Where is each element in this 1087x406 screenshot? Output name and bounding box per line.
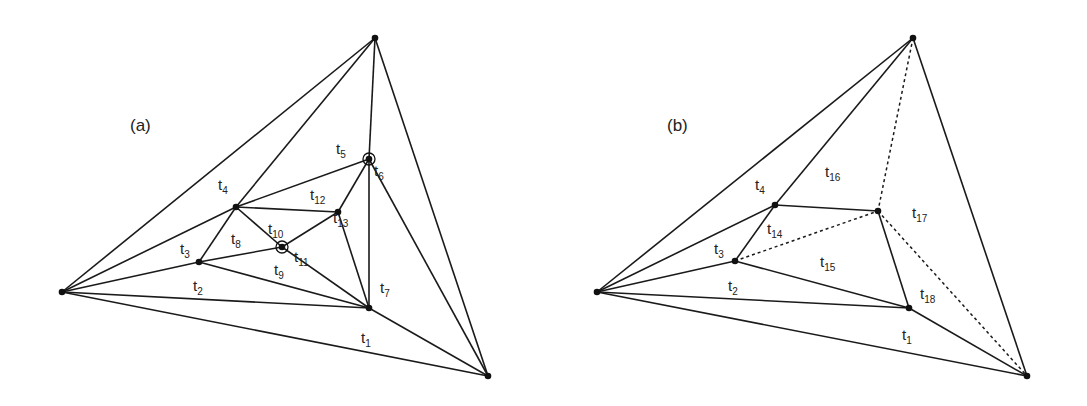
vertex-dot <box>732 258 739 265</box>
triangle-label: t11 <box>294 248 309 268</box>
edge <box>597 205 775 292</box>
vertex-dot <box>875 208 882 215</box>
vertex-dot <box>366 305 373 312</box>
panel-b-triangulation: t1t2t3t4t14t15t16t17t18(b) <box>594 35 1031 380</box>
vertex-dot <box>485 373 492 380</box>
edge <box>338 159 369 212</box>
edge <box>282 212 338 247</box>
triangle-label: t17 <box>912 204 928 224</box>
edge <box>597 261 735 292</box>
triangle-label: t3 <box>714 240 724 260</box>
triangle-label: t18 <box>920 285 936 305</box>
edge <box>775 38 913 205</box>
triangle-label: t4 <box>218 176 228 196</box>
triangulation-diagram: t1t2t3t4t5t6t7t8t9t10t11t12t13(a) t1t2t3… <box>0 0 1087 406</box>
dashed-edge <box>878 38 913 211</box>
vertex-dot <box>196 259 203 266</box>
vertex-dot <box>59 289 66 296</box>
edge <box>62 207 236 292</box>
edge <box>62 292 488 376</box>
edge <box>62 262 199 292</box>
edge <box>62 292 369 308</box>
edge <box>369 38 375 159</box>
triangle-label: t1 <box>902 326 912 346</box>
edge <box>878 211 909 308</box>
edge <box>775 205 878 211</box>
edge <box>913 38 1027 376</box>
edge <box>375 38 488 376</box>
vertex-dot <box>906 305 913 312</box>
triangle-label: t5 <box>336 140 346 160</box>
vertex-dot <box>279 244 286 251</box>
edge <box>909 308 1027 376</box>
triangle-label: t1 <box>361 329 371 349</box>
triangle-label: t8 <box>231 230 241 250</box>
triangle-label: t6 <box>374 162 384 182</box>
vertex-dot <box>366 156 373 163</box>
edge <box>369 159 488 376</box>
triangle-label: t2 <box>193 277 203 297</box>
triangle-label: t14 <box>767 220 783 240</box>
panel-label: (b) <box>667 116 688 135</box>
vertex-dot <box>233 204 240 211</box>
triangle-label: t16 <box>825 163 841 183</box>
triangle-label: t7 <box>380 279 390 299</box>
vertex-dot <box>910 35 917 42</box>
panel-label: (a) <box>130 116 151 135</box>
triangle-label: t15 <box>820 253 836 273</box>
edge <box>597 292 909 308</box>
triangle-label: t4 <box>755 176 765 196</box>
edge <box>62 38 375 292</box>
edge <box>597 38 913 292</box>
vertex-dot <box>594 289 601 296</box>
vertex-dot <box>772 202 779 209</box>
triangle-label: t2 <box>728 277 738 297</box>
triangle-label: t9 <box>274 261 284 281</box>
edge <box>236 207 282 247</box>
panel-a-triangulation: t1t2t3t4t5t6t7t8t9t10t11t12t13(a) <box>59 35 492 380</box>
triangle-label: t3 <box>180 240 190 260</box>
vertex-dot <box>1024 373 1031 380</box>
vertex-dot <box>372 35 379 42</box>
edge <box>236 207 338 212</box>
dashed-edge <box>735 211 878 261</box>
triangle-label: t12 <box>310 186 326 206</box>
